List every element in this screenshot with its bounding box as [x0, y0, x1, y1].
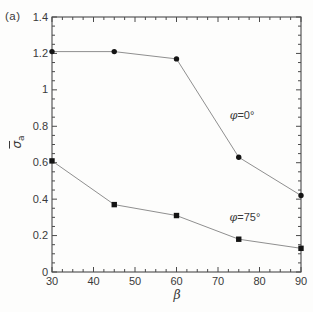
data-point	[112, 49, 117, 54]
figure-panel: (a) σa β φ=0°φ=75°3040506070809000.20.40…	[0, 0, 313, 312]
y-tick-label: 0.4	[16, 193, 48, 206]
series-line-1	[52, 161, 301, 248]
y-tick-label: 0.8	[16, 120, 48, 133]
annotation-symbol: φ	[230, 211, 238, 224]
y-axis-symbol: σ	[10, 141, 24, 149]
y-tick-label: 0.2	[16, 229, 48, 242]
series-line-0	[52, 52, 301, 196]
plot-frame	[52, 17, 301, 272]
annotation-text: =75°	[237, 211, 260, 223]
x-tick-label: 70	[206, 275, 230, 288]
annotation-symbol: φ	[230, 109, 238, 122]
data-point	[236, 237, 241, 242]
y-tick-label: 1.2	[16, 47, 48, 60]
y-tick-label: 1	[16, 83, 48, 96]
data-point	[298, 246, 303, 251]
data-point	[236, 155, 241, 160]
series-annotation-0: φ=0°	[230, 109, 255, 122]
data-point	[49, 49, 54, 54]
x-tick-label: 40	[82, 275, 106, 288]
x-tick-label: 60	[165, 275, 189, 288]
series-markers-0	[49, 49, 303, 198]
x-tick-label: 90	[289, 275, 313, 288]
y-axis-subscript: a	[16, 135, 26, 141]
y-tick-label: 1.4	[16, 11, 48, 24]
x-axis-label: β	[168, 287, 186, 302]
series-markers-1	[49, 158, 303, 251]
y-tick-label: 0.6	[16, 156, 48, 169]
y-tick-label: 0	[16, 266, 48, 279]
data-point	[112, 202, 117, 207]
data-point	[298, 193, 303, 198]
data-point	[174, 213, 179, 218]
series-annotation-1: φ=75°	[230, 211, 261, 224]
x-tick-label: 50	[123, 275, 147, 288]
data-point	[49, 158, 54, 163]
data-point	[174, 56, 179, 61]
annotation-text: =0°	[237, 109, 254, 121]
x-tick-label: 80	[248, 275, 272, 288]
axis-ticks	[52, 17, 301, 272]
